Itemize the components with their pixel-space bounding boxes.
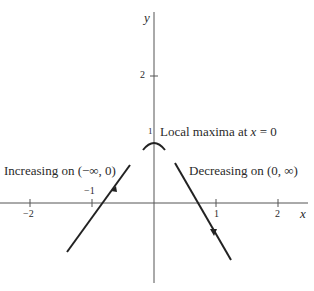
y-tick-label-2: 2 (140, 69, 145, 80)
x-axis-label: x (300, 206, 306, 222)
x-tick-label-2: 2 (275, 208, 280, 219)
decreasing-annotation: Decreasing on (0, ∞) (189, 163, 298, 179)
local-max-prefix: Local maxima at (160, 124, 251, 139)
graph-canvas (0, 0, 314, 291)
increasing-annotation: Increasing on (−∞, 0) (4, 163, 116, 179)
local-max-suffix: = 0 (256, 124, 276, 139)
x-tick-label-m1: −1 (84, 185, 95, 196)
x-tick-label-m2: −2 (23, 208, 34, 219)
x-tick-label-1: 1 (214, 208, 219, 219)
y-tick-label-1: 1 (148, 126, 153, 136)
y-axis-label: y (144, 10, 150, 26)
local-max-annotation: Local maxima at x = 0 (160, 124, 277, 140)
